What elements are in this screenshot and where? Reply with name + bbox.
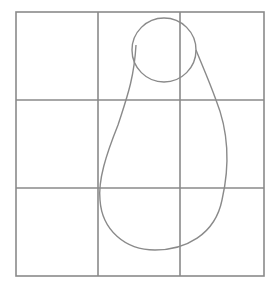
top-circle: [132, 18, 196, 82]
pear-shape: [100, 18, 227, 250]
pear-outline: [100, 45, 227, 250]
grid-drawing: [0, 0, 278, 287]
